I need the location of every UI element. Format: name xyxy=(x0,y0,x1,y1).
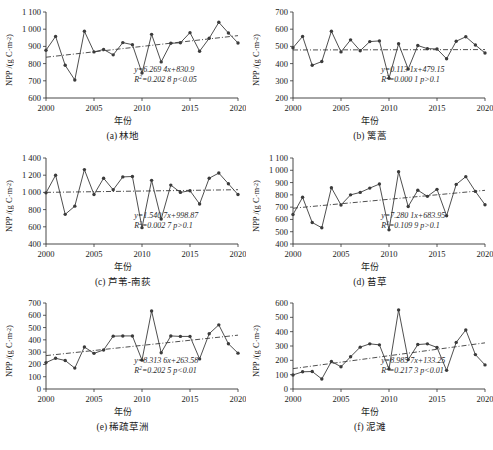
r-squared-text: R2=0.002 7 p>0.1 xyxy=(133,220,192,230)
svg-text:400: 400 xyxy=(275,327,288,337)
svg-text:300: 300 xyxy=(275,341,288,351)
svg-text:2020: 2020 xyxy=(230,394,247,404)
svg-text:800: 800 xyxy=(28,59,41,69)
svg-text:2000: 2000 xyxy=(285,394,302,404)
svg-text:2020: 2020 xyxy=(230,103,247,113)
svg-text:1 000: 1 000 xyxy=(269,165,288,175)
panel-caption-c: (c) 芦苇-南荻 xyxy=(0,274,246,288)
svg-text:2020: 2020 xyxy=(230,249,247,259)
svg-text:1 000: 1 000 xyxy=(22,24,41,34)
svg-text:2005: 2005 xyxy=(333,249,350,259)
chart-panel-b: NPP /(g C·m-2)20030040050060070020002005… xyxy=(247,2,493,148)
svg-text:2000: 2000 xyxy=(38,103,55,113)
chart-panel-c: NPP /(g C·m-2)4006008001 0001 2001 40020… xyxy=(0,148,246,294)
plot-area-d: 4005006007008009001 0001 100200020052010… xyxy=(247,148,493,270)
svg-text:2005: 2005 xyxy=(86,394,103,404)
regression-equation: y=0.113 1x+479.15 xyxy=(380,65,444,74)
svg-text:2010: 2010 xyxy=(381,249,398,259)
svg-text:600: 600 xyxy=(28,222,41,232)
svg-text:500: 500 xyxy=(275,312,288,322)
svg-text:600: 600 xyxy=(28,93,41,103)
plot-area-c: 4006008001 0001 2001 4002000200520102015… xyxy=(0,148,246,270)
plot-area-b: 20030040050060070020002005201020152020y=… xyxy=(247,2,493,124)
x-axis-label: 年份 xyxy=(247,260,493,273)
svg-text:100: 100 xyxy=(28,372,41,382)
svg-text:2020: 2020 xyxy=(477,394,493,404)
x-axis-label: 年份 xyxy=(0,114,246,127)
svg-text:900: 900 xyxy=(28,41,41,51)
svg-text:700: 700 xyxy=(28,298,41,308)
panel-caption-e: (e) 稀疏草洲 xyxy=(0,419,246,433)
x-axis-label: 年份 xyxy=(247,114,493,127)
svg-text:500: 500 xyxy=(28,323,41,333)
svg-text:2010: 2010 xyxy=(134,249,151,259)
svg-text:2010: 2010 xyxy=(381,394,398,404)
svg-text:2015: 2015 xyxy=(429,103,446,113)
svg-text:1 200: 1 200 xyxy=(22,170,41,180)
x-axis-label: 年份 xyxy=(0,405,246,418)
svg-text:1 100: 1 100 xyxy=(269,153,288,163)
r-squared-text: R2=0.202 8 p<0.05 xyxy=(133,74,196,84)
svg-text:800: 800 xyxy=(275,190,288,200)
svg-text:500: 500 xyxy=(275,41,288,51)
svg-text:400: 400 xyxy=(28,239,41,249)
svg-text:200: 200 xyxy=(275,355,288,365)
svg-text:100: 100 xyxy=(275,370,288,380)
svg-text:200: 200 xyxy=(28,359,41,369)
svg-text:2005: 2005 xyxy=(333,103,350,113)
svg-text:700: 700 xyxy=(275,7,288,17)
regression-equation: y=7.280 1x+683.95 xyxy=(380,211,445,220)
svg-text:1 400: 1 400 xyxy=(22,153,41,163)
svg-text:2015: 2015 xyxy=(182,103,199,113)
svg-text:400: 400 xyxy=(275,59,288,69)
svg-text:400: 400 xyxy=(28,335,41,345)
svg-text:2000: 2000 xyxy=(285,249,302,259)
svg-text:600: 600 xyxy=(275,214,288,224)
svg-text:2000: 2000 xyxy=(38,249,55,259)
regression-equation: y=6.269 4x+830.9 xyxy=(133,65,194,74)
plot-area-e: 0100200300400500600700200020052010201520… xyxy=(0,293,246,415)
r-squared-text: R2=0.202 5 p<0.01 xyxy=(133,365,196,375)
svg-text:1 100: 1 100 xyxy=(22,7,41,17)
svg-text:300: 300 xyxy=(28,347,41,357)
svg-text:2015: 2015 xyxy=(429,394,446,404)
svg-text:1 000: 1 000 xyxy=(22,187,41,197)
x-axis-label: 年份 xyxy=(0,260,246,273)
panel-caption-d: (d) 苔草 xyxy=(247,274,493,288)
panel-caption-b: (b) 篱蒿 xyxy=(247,128,493,142)
panel-caption-a: (a) 林地 xyxy=(0,128,246,142)
svg-text:2010: 2010 xyxy=(381,103,398,113)
figure-caption xyxy=(0,432,493,448)
svg-text:2015: 2015 xyxy=(182,249,199,259)
regression-equation: y=8.985 7x+133.25 xyxy=(380,356,445,365)
r-squared-text: R2=0.000 1 p>0.1 xyxy=(380,74,439,84)
chart-panel-e: NPP /(g C·m-2)01002003004005006007002000… xyxy=(0,293,246,439)
svg-text:600: 600 xyxy=(275,298,288,308)
svg-text:2005: 2005 xyxy=(86,249,103,259)
svg-text:2000: 2000 xyxy=(38,394,55,404)
svg-text:0: 0 xyxy=(37,384,41,394)
regression-equation: y=1.540 7x+998.87 xyxy=(133,211,199,220)
chart-panel-d: NPP /(g C·m-2)4005006007008009001 0001 1… xyxy=(247,148,493,294)
svg-text:700: 700 xyxy=(28,76,41,86)
svg-text:2005: 2005 xyxy=(333,394,350,404)
svg-text:700: 700 xyxy=(275,202,288,212)
svg-text:400: 400 xyxy=(275,239,288,249)
svg-text:2010: 2010 xyxy=(134,103,151,113)
svg-text:800: 800 xyxy=(28,205,41,215)
npp-trend-figure: NPP /(g C·m-2)6007008009001 0001 1002000… xyxy=(0,0,493,450)
svg-text:2020: 2020 xyxy=(477,249,493,259)
svg-text:600: 600 xyxy=(28,310,41,320)
plot-area-f: 010020030040050060020002005201020152020y… xyxy=(247,293,493,415)
chart-panel-f: NPP /(g C·m-2)01002003004005006002000200… xyxy=(247,293,493,439)
svg-text:2015: 2015 xyxy=(182,394,199,404)
svg-text:200: 200 xyxy=(275,93,288,103)
svg-text:600: 600 xyxy=(275,24,288,34)
r-squared-text: R2=0.217 3 p<0.01 xyxy=(380,365,443,375)
svg-text:500: 500 xyxy=(275,227,288,237)
svg-text:300: 300 xyxy=(275,76,288,86)
regression-equation: y=8.313 6x+263.58 xyxy=(133,356,198,365)
svg-text:2000: 2000 xyxy=(285,103,302,113)
chart-panel-a: NPP /(g C·m-2)6007008009001 0001 1002000… xyxy=(0,2,246,148)
svg-text:900: 900 xyxy=(275,178,288,188)
